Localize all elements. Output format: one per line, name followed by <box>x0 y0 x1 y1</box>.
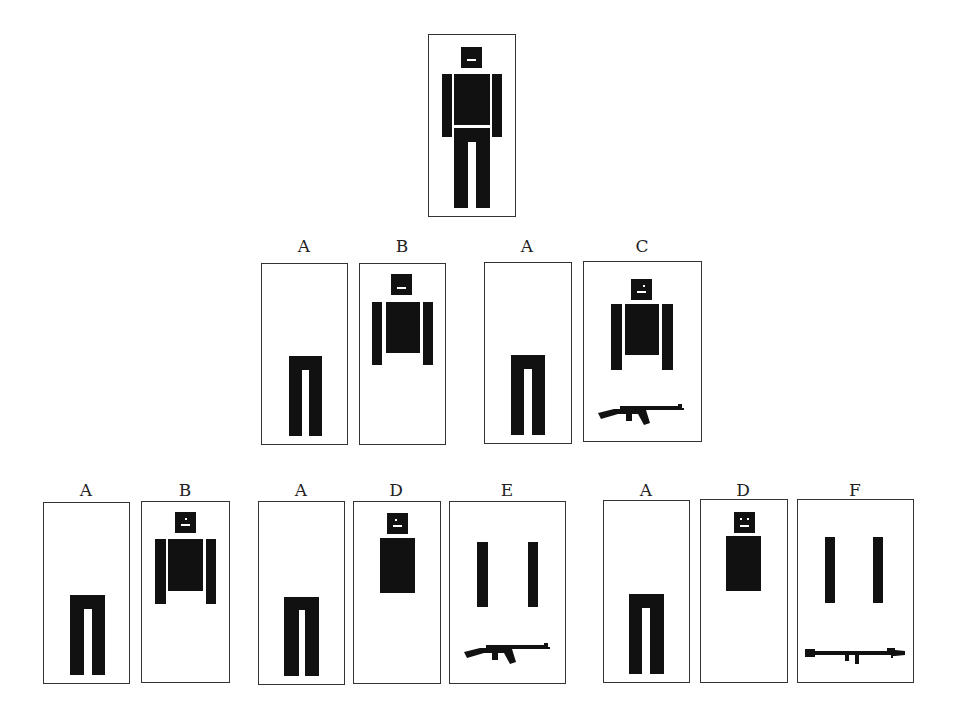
legs-card <box>43 502 130 684</box>
label-a: A <box>507 236 547 256</box>
rifle-icon <box>598 401 688 429</box>
label-a: A <box>66 480 106 500</box>
head-icon <box>387 513 408 534</box>
legs-card <box>484 262 572 444</box>
arms-rifle-card <box>449 501 566 684</box>
head-icon <box>461 47 482 68</box>
head-torso-card <box>353 501 441 684</box>
hip <box>454 128 490 142</box>
full-figure-card <box>428 34 516 217</box>
upper-body-card <box>141 501 230 683</box>
label-f: F <box>835 480 875 500</box>
head-torso-card <box>700 499 788 683</box>
head-icon <box>631 279 652 300</box>
label-c: C <box>622 236 662 256</box>
left-arm <box>442 74 452 137</box>
label-b: B <box>382 236 422 256</box>
head-icon <box>734 512 755 533</box>
rocket-launcher-icon <box>805 648 909 672</box>
legs-card <box>258 501 345 685</box>
arms-launcher-card <box>797 499 914 683</box>
head-icon <box>175 512 196 533</box>
right-arm <box>492 74 502 137</box>
upper-body-card <box>359 263 446 445</box>
label-e: E <box>487 480 527 500</box>
label-a: A <box>281 480 321 500</box>
rifle-icon <box>464 640 554 668</box>
upper-body-rifle-card <box>583 261 702 442</box>
label-b: B <box>165 480 205 500</box>
label-a: A <box>284 236 324 256</box>
torso <box>454 74 490 125</box>
label-a: A <box>626 480 666 500</box>
label-d: D <box>376 480 416 500</box>
head-icon <box>391 274 412 295</box>
legs-card <box>261 263 348 445</box>
legs-card <box>603 500 690 683</box>
label-d: D <box>723 480 763 500</box>
